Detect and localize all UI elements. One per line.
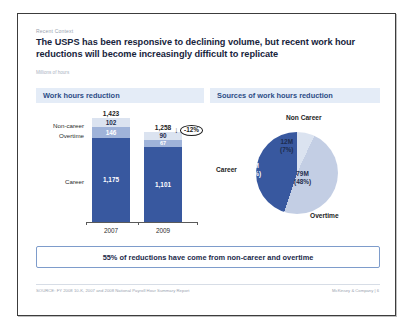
bar-category-label-overtime: Overtime bbox=[36, 132, 84, 139]
pie-value-overtime: 79M (48%) bbox=[294, 170, 311, 186]
units-label: Millions of hours bbox=[36, 70, 69, 75]
bar-xlabel-2009: 2009 bbox=[144, 227, 182, 234]
delta-badge: -12% bbox=[180, 125, 204, 136]
slide-eyebrow: Recent Context bbox=[36, 28, 73, 34]
pie-label-career: Career bbox=[216, 166, 237, 174]
pie-value-non-career-amount: 12M bbox=[280, 138, 294, 146]
pie-value-non-career: 12M (7%) bbox=[280, 138, 294, 154]
bar-axis-tick-right bbox=[197, 222, 198, 225]
pie-chart: Non Career Overtime Career 12M (7%) 79M … bbox=[210, 108, 380, 236]
bar-segment-overtime-2007[interactable]: 146 bbox=[92, 127, 130, 138]
bar-segment-career-2009[interactable]: 1,101 bbox=[144, 147, 182, 222]
bar-category-label-non-career: Non-career bbox=[36, 122, 84, 129]
pie-value-career-amount: 74M bbox=[244, 162, 261, 170]
bar-segment-career-2007[interactable]: 1,175 bbox=[92, 138, 130, 222]
pie-value-career: 74M (45%) bbox=[244, 162, 261, 178]
brand-footer: McKinsey & Company | 6 bbox=[332, 288, 379, 293]
pie-label-overtime: Overtime bbox=[310, 212, 339, 220]
delta-annotation: ↓ -12% bbox=[174, 125, 203, 136]
slide-frame: Recent Context The USPS has been respons… bbox=[17, 13, 396, 316]
bar-axis-tick-left bbox=[86, 222, 87, 225]
source-note: SOURCE: FY 2008 10-K, 2007 and 2008 Nati… bbox=[36, 288, 189, 293]
bar-axis-tick-mid bbox=[138, 222, 139, 225]
callout-text: 55% of reductions have come from non-car… bbox=[103, 253, 314, 262]
pie-label-non-career: Non Career bbox=[286, 114, 322, 122]
footer-divider bbox=[36, 284, 380, 285]
bar-axis-line bbox=[86, 222, 198, 223]
pie-value-career-percent: (45%) bbox=[244, 170, 261, 178]
panel-header-work-hours-reduction: Work hours reduction bbox=[36, 88, 204, 103]
bar-segment-overtime-2009[interactable]: 67 bbox=[144, 140, 182, 147]
slide-headline: The USPS has been responsive to declinin… bbox=[36, 36, 380, 60]
pie-value-non-career-percent: (7%) bbox=[280, 146, 294, 154]
bar-xlabel-2007: 2007 bbox=[92, 227, 130, 234]
down-arrow-icon: ↓ bbox=[175, 126, 178, 135]
pie-value-overtime-percent: (48%) bbox=[294, 178, 311, 186]
bar-category-label-career: Career bbox=[36, 178, 84, 185]
pie-value-overtime-amount: 79M bbox=[294, 170, 311, 178]
panel-header-sources-of-work-hours-reduction: Sources of work hours reduction bbox=[210, 88, 380, 103]
callout-box: 55% of reductions have come from non-car… bbox=[36, 246, 380, 268]
stacked-bar-chart: Non-career Overtime Career 1,423 102 146… bbox=[36, 108, 204, 236]
bar-segment-non-career-2007[interactable]: 102 bbox=[92, 118, 130, 127]
bar-total-2007: 1,423 bbox=[92, 110, 130, 117]
